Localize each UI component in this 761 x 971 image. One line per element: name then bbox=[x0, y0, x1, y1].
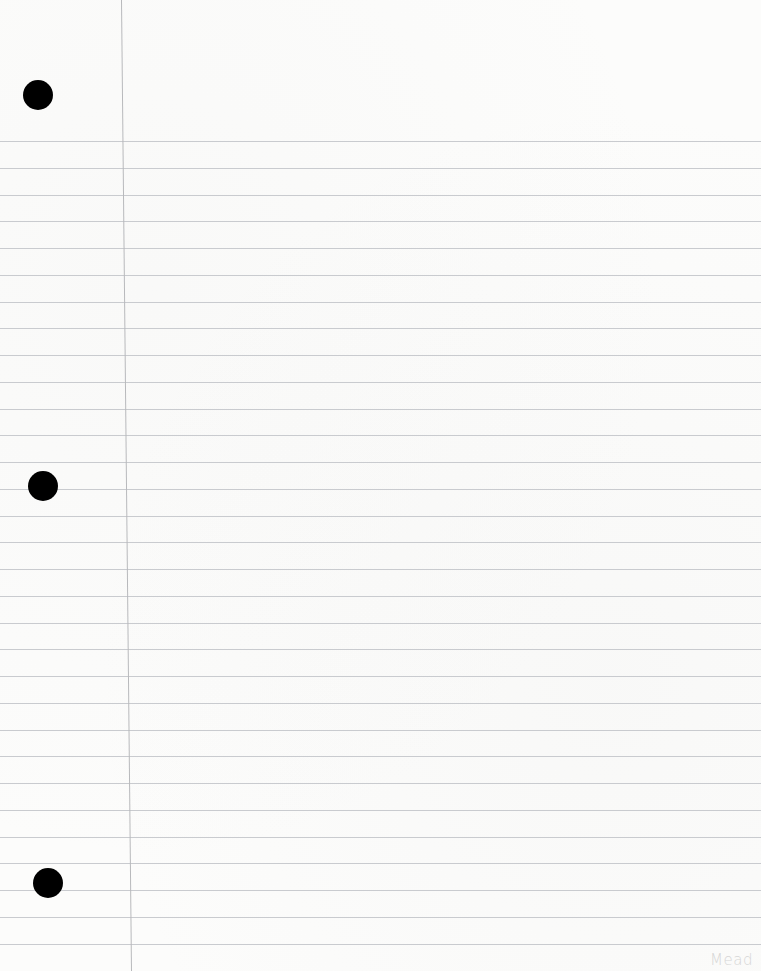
binder-hole bbox=[33, 868, 63, 898]
ruled-line bbox=[0, 944, 761, 945]
ruled-line bbox=[0, 275, 761, 276]
ruled-line bbox=[0, 409, 761, 410]
ruled-line bbox=[0, 542, 761, 543]
ruled-line bbox=[0, 248, 761, 249]
ruled-line bbox=[0, 703, 761, 704]
ruled-line bbox=[0, 435, 761, 436]
ruled-line bbox=[0, 141, 761, 142]
ruled-line bbox=[0, 328, 761, 329]
ruled-line bbox=[0, 917, 761, 918]
ruled-line bbox=[0, 890, 761, 891]
ruled-line bbox=[0, 382, 761, 383]
ruled-line bbox=[0, 783, 761, 784]
binder-hole bbox=[28, 471, 58, 501]
ruled-line bbox=[0, 596, 761, 597]
ruled-line bbox=[0, 810, 761, 811]
ruled-line bbox=[0, 837, 761, 838]
ruled-line bbox=[0, 489, 761, 490]
binder-hole bbox=[23, 80, 53, 110]
ruled-line bbox=[0, 168, 761, 169]
ruled-line bbox=[0, 863, 761, 864]
ruled-line bbox=[0, 623, 761, 624]
notebook-paper: Mead bbox=[0, 0, 761, 971]
ruled-line bbox=[0, 649, 761, 650]
ruled-line bbox=[0, 195, 761, 196]
ruled-line bbox=[0, 221, 761, 222]
ruled-line bbox=[0, 302, 761, 303]
ruled-line bbox=[0, 516, 761, 517]
ruled-line bbox=[0, 355, 761, 356]
margin-line bbox=[121, 0, 132, 971]
ruled-line bbox=[0, 730, 761, 731]
brand-logo: Mead bbox=[710, 951, 753, 969]
ruled-line bbox=[0, 569, 761, 570]
ruled-line bbox=[0, 676, 761, 677]
ruled-line bbox=[0, 462, 761, 463]
ruled-line bbox=[0, 756, 761, 757]
